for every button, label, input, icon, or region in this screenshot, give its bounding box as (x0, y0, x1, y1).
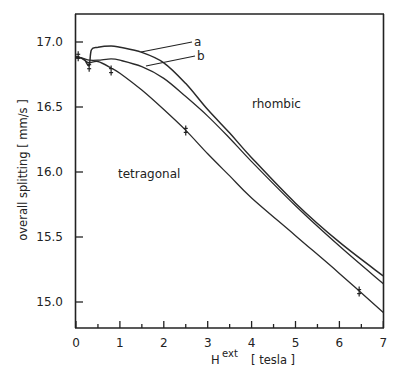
x-tick-label: 1 (116, 336, 124, 350)
x-axis-ticks: 01234567 (72, 321, 387, 350)
y-tick-label: 15.5 (36, 230, 63, 244)
region-label-tetragonal: tetragonal (118, 167, 180, 181)
region-label-rhombic: rhombic (252, 97, 301, 111)
curve-tetragonal (76, 56, 383, 312)
x-tick-label: 6 (336, 336, 344, 350)
chart-svg: 01234567 15.015.516.016.517.0 a b rhombi… (0, 0, 398, 373)
x-tick-label: 4 (248, 336, 256, 350)
x-axis-title-h: H (211, 353, 220, 367)
x-axis-title-unit: [ tesla ] (251, 353, 295, 367)
y-tick-label: 17.0 (36, 35, 63, 49)
y-tick-label: 15.0 (36, 295, 63, 309)
y-axis-title-group: overall splitting [ mm/s ] (16, 99, 30, 240)
x-tick-label: 5 (292, 336, 300, 350)
curve-label-b: b (197, 49, 205, 63)
leader-a (141, 42, 192, 52)
y-axis-title: overall splitting [ mm/s ] (16, 99, 30, 240)
y-tick-label: 16.0 (36, 165, 63, 179)
x-axis-title-sup: ext (222, 348, 238, 359)
x-tick-label: 2 (160, 336, 168, 350)
x-tick-label: 0 (72, 336, 80, 350)
x-tick-label: 7 (379, 336, 387, 350)
x-tick-label: 3 (204, 336, 212, 350)
y-tick-label: 16.5 (36, 100, 63, 114)
curve-label-a: a (194, 35, 201, 49)
curve-a (76, 46, 383, 276)
